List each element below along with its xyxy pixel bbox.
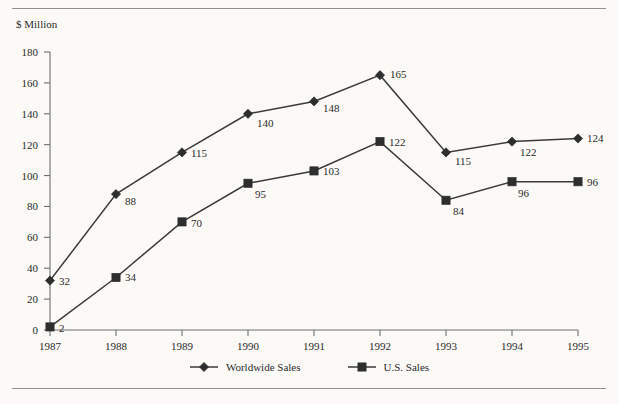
data-point-diamond <box>573 134 582 143</box>
data-point-diamond <box>309 97 318 106</box>
y-tick-label: 40 <box>27 262 39 274</box>
chart-legend: Worldwide SalesU.S. Sales <box>0 361 618 373</box>
x-tick-label: 1987 <box>39 340 62 352</box>
y-tick-label: 80 <box>27 200 39 212</box>
x-axis-group: 198719881989199019911992199319941995 <box>39 330 590 352</box>
chart-page: $ Million 020406080100120140160180 19871… <box>0 0 618 404</box>
x-tick-label: 1995 <box>567 340 590 352</box>
line-chart-plot: 020406080100120140160180 198719881989199… <box>0 0 618 404</box>
data-point-label: 32 <box>59 275 70 287</box>
y-tick-label: 120 <box>22 139 39 151</box>
data-point-label: 148 <box>323 102 340 114</box>
x-tick-label: 1990 <box>237 340 260 352</box>
data-point-diamond <box>177 148 186 157</box>
data-point-square <box>442 196 450 204</box>
data-point-diamond <box>507 137 516 146</box>
data-point-square <box>112 273 120 281</box>
data-point-square <box>574 178 582 186</box>
series-group: 3288115140148165115122124234709510312284… <box>45 68 604 334</box>
y-axis-group: 020406080100120140160180 <box>22 46 51 336</box>
x-tick-label: 1993 <box>435 340 458 352</box>
data-point-label: 122 <box>389 136 406 148</box>
data-point-label: 96 <box>518 187 530 199</box>
data-point-diamond <box>243 109 252 118</box>
legend-label: U.S. Sales <box>384 361 430 373</box>
data-point-square <box>244 179 252 187</box>
data-point-label: 140 <box>257 117 274 129</box>
data-point-label: 70 <box>191 217 203 229</box>
data-point-label: 2 <box>59 322 65 334</box>
chart-svg: 020406080100120140160180 198719881989199… <box>0 0 618 404</box>
y-tick-label: 140 <box>22 108 39 120</box>
x-tick-label: 1988 <box>105 340 128 352</box>
y-tick-label: 160 <box>22 77 39 89</box>
legend-square-icon <box>347 361 377 373</box>
data-point-label: 124 <box>587 132 604 144</box>
data-point-label: 34 <box>125 271 137 283</box>
x-tick-label: 1989 <box>171 340 194 352</box>
y-tick-label: 20 <box>27 293 39 305</box>
data-point-square <box>376 137 384 145</box>
data-point-square <box>310 167 318 175</box>
data-point-square <box>46 323 54 331</box>
data-point-square <box>508 178 516 186</box>
data-point-diamond <box>199 362 208 371</box>
legend-diamond-icon <box>189 361 219 373</box>
data-point-square <box>357 363 365 371</box>
y-tick-label: 180 <box>22 46 39 58</box>
y-tick-label: 100 <box>22 170 39 182</box>
data-point-label: 165 <box>390 68 407 80</box>
data-point-label: 103 <box>323 165 340 177</box>
x-tick-label: 1991 <box>303 340 325 352</box>
legend-label: Worldwide Sales <box>226 361 301 373</box>
data-point-square <box>178 218 186 226</box>
data-point-label: 115 <box>455 155 472 167</box>
y-tick-label: 0 <box>33 324 39 336</box>
x-tick-label: 1994 <box>501 340 524 352</box>
data-point-label: 88 <box>125 195 137 207</box>
data-point-label: 122 <box>520 146 537 158</box>
data-point-label: 95 <box>255 188 267 200</box>
legend-item-us-sales[interactable]: U.S. Sales <box>347 361 430 373</box>
data-point-label: 96 <box>587 176 599 188</box>
data-point-label: 84 <box>453 205 465 217</box>
x-tick-label: 1992 <box>369 340 391 352</box>
legend-item-worldwide-sales[interactable]: Worldwide Sales <box>189 361 301 373</box>
data-point-label: 115 <box>191 147 208 159</box>
y-tick-label: 60 <box>27 231 39 243</box>
